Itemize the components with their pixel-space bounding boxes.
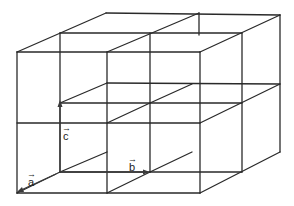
vector-b-label: → b bbox=[129, 162, 135, 173]
lattice-diagram bbox=[0, 0, 294, 206]
vector-c-label: → c bbox=[63, 131, 69, 142]
back-plane bbox=[106, 13, 280, 152]
vector-a-arrow bbox=[19, 174, 56, 191]
basis-vectors bbox=[17, 100, 150, 192]
vector-a-label: → a bbox=[28, 177, 34, 188]
depth-edges bbox=[17, 13, 280, 193]
